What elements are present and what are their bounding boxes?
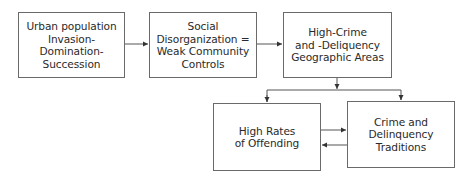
node-social-disorganization: Social Disorganization = Weak Community … — [149, 12, 257, 78]
node-label: Urban population Invasion- Domination- S… — [26, 20, 116, 70]
node-label: Crime and Delinquency Traditions — [369, 116, 434, 154]
node-label: High Rates of Offending — [235, 125, 300, 150]
node-high-crime-areas: High-Crime and -Deliquency Geographic Ar… — [283, 12, 392, 78]
node-urban-population: Urban population Invasion- Domination- S… — [18, 12, 125, 78]
node-crime-delinquency-traditions: Crime and Delinquency Traditions — [347, 101, 455, 168]
node-label: Social Disorganization = Weak Community … — [156, 20, 249, 70]
node-high-rates-offending: High Rates of Offending — [213, 103, 321, 171]
node-label: High-Crime and -Deliquency Geographic Ar… — [291, 26, 384, 64]
